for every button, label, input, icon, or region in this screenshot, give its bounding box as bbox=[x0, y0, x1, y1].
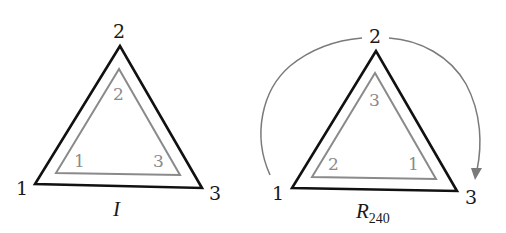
outer-vertex-label-top: 2 bbox=[369, 25, 381, 47]
caption-subscript: 240 bbox=[369, 211, 390, 226]
symmetry-diagram-canvas: 2 1 3 2 1 3 I 2 1 3 3 2 1 R240 bbox=[0, 0, 506, 233]
rotation-240-diagram: 2 1 3 3 2 1 R240 bbox=[261, 25, 482, 226]
inner-vertex-label-right: 3 bbox=[153, 151, 164, 171]
diagram-caption-rotation: R240 bbox=[355, 199, 390, 226]
inner-vertex-label-left: 2 bbox=[328, 154, 339, 174]
inner-vertex-label-right: 1 bbox=[408, 154, 419, 174]
identity-diagram: 2 1 3 2 1 3 I bbox=[16, 20, 221, 221]
outer-vertex-label-left: 1 bbox=[272, 182, 284, 204]
inner-vertex-label-left: 1 bbox=[74, 151, 85, 171]
outer-vertex-label-top: 2 bbox=[113, 20, 125, 42]
outer-vertex-label-left: 1 bbox=[16, 177, 28, 199]
outer-vertex-label-right: 3 bbox=[465, 186, 477, 208]
inner-vertex-label-top: 3 bbox=[369, 90, 380, 110]
rotation-arrowhead-icon bbox=[471, 168, 482, 180]
inner-vertex-label-top: 2 bbox=[113, 84, 124, 104]
diagram-caption-identity: I bbox=[112, 197, 121, 221]
outer-vertex-label-right: 3 bbox=[209, 182, 221, 204]
